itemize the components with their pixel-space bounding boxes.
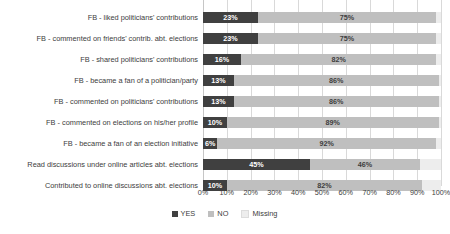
bar-segment-missing [439,96,441,107]
bar-track: 13%86% [203,91,441,112]
legend-label: YES [181,210,196,218]
axis-tick-label: 40% [291,188,305,197]
axis-tick-label: 70% [362,188,376,197]
legend-item-no[interactable]: NO [208,210,228,218]
bar-segment-yes: 45% [203,159,310,170]
bar-track: 10%89% [203,112,441,133]
legend-swatch-yes-icon [172,211,178,217]
bar-rows: FB - liked politicians' contributions23%… [0,7,449,196]
legend-label: NO [217,210,228,218]
bar-segment-no: 46% [310,159,419,170]
bar-value-label: 86% [329,77,343,85]
bar-track: 23%75% [203,28,441,49]
axis-tick-label: 90% [410,188,424,197]
bar-track: 16%82% [203,49,441,70]
bar-track: 23%75% [203,7,441,28]
plot-area: FB - liked politicians' contributions23%… [0,0,449,186]
bar-value-label: 13% [211,77,225,85]
bar-segment-yes: 23% [203,33,258,44]
axis-tick-label: 0% [198,188,208,197]
bar-row: FB - commented on friends' contrib. abt.… [0,28,449,49]
axis-tick-label: 30% [267,188,281,197]
legend-item-yes[interactable]: YES [172,210,196,218]
category-label: FB - shared politicians' contributions [0,55,203,64]
bar-value-label: 46% [358,161,372,169]
bar-segment-no: 82% [241,54,436,65]
legend-swatch-no-icon [208,211,214,217]
bar-value-label: 23% [223,14,237,22]
axis-tick-label: 60% [339,188,353,197]
bar-segment-yes: 23% [203,12,258,23]
axis-tick-label: 50% [315,188,329,197]
axis-tick-label: 100% [432,188,450,197]
bar-segment-yes: 10% [203,117,227,128]
bar-value-label: 45% [249,161,263,169]
bar-row: FB - shared politicians' contributions16… [0,49,449,70]
bar-segment-missing [420,159,441,170]
bar-segment-missing [436,33,441,44]
bar-segment-no: 89% [227,117,439,128]
category-label: Read discussions under online articles a… [0,160,203,169]
bar-segment-yes: 16% [203,54,241,65]
bar-value-label: 16% [215,56,229,64]
chart-legend: YESNOMissing [0,210,449,218]
bar-segment-no: 86% [234,96,439,107]
bar-segment-no: 75% [258,33,437,44]
bar-segment-missing [436,12,441,23]
category-label: FB - commented on elections on his/her p… [0,118,203,127]
bar-segment-yes: 13% [203,96,234,107]
bar-segment-yes: 6% [203,138,217,149]
x-axis: 0%10%20%30%40%50%60%70%80%90%100% [203,186,441,200]
category-label: FB - commented on friends' contrib. abt.… [0,34,203,43]
bar-track: 13%86% [203,70,441,91]
bar-row: FB - commented on politicians' contribut… [0,91,449,112]
bar-value-label: 23% [223,35,237,43]
bar-value-label: 75% [340,14,354,22]
bar-segment-missing [439,117,441,128]
bar-row: FB - commented on elections on his/her p… [0,112,449,133]
bar-segment-yes: 13% [203,75,234,86]
bar-segment-missing [436,138,441,149]
axis-tick-label: 80% [386,188,400,197]
category-label: FB - became a fan of a politician/party [0,76,203,85]
bar-value-label: 6% [205,140,215,148]
bar-value-label: 75% [340,35,354,43]
bar-value-label: 89% [326,119,340,127]
axis-tick-label: 20% [243,188,257,197]
bar-row: FB - became a fan of an election initiat… [0,133,449,154]
legend-label: Missing [252,210,277,218]
category-label: FB - became a fan of an election initiat… [0,139,203,148]
axis-tick-label: 10% [220,188,234,197]
bar-segment-no: 75% [258,12,437,23]
category-label: FB - commented on politicians' contribut… [0,97,203,106]
bar-segment-missing [439,75,441,86]
bar-value-label: 86% [329,98,343,106]
bar-row: FB - became a fan of a politician/party1… [0,70,449,91]
bar-segment-no: 92% [217,138,436,149]
bar-row: Read discussions under online articles a… [0,154,449,175]
bar-value-label: 92% [320,140,334,148]
legend-item-missing[interactable]: Missing [241,210,277,218]
bar-value-label: 82% [331,56,345,64]
category-label: Contributed to online discussions abt. e… [0,181,203,190]
legend-swatch-missing-icon [241,210,249,218]
bar-row: FB - liked politicians' contributions23%… [0,7,449,28]
bar-segment-missing [436,54,441,65]
bar-value-label: 10% [208,119,222,127]
bar-value-label: 13% [211,98,225,106]
bar-segment-no: 86% [234,75,439,86]
bar-track: 6%92% [203,133,441,154]
category-label: FB - liked politicians' contributions [0,13,203,22]
bar-track: 45%46% [203,154,441,175]
